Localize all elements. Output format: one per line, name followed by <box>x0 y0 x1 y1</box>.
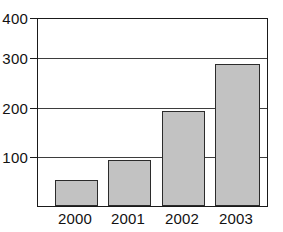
y-axis-label-300: 300 <box>2 51 28 66</box>
bar-2002 <box>162 111 205 206</box>
y-axis-label-400: 400 <box>2 11 28 26</box>
y-tick-mark-300 <box>30 58 37 59</box>
x-axis-label-2003: 2003 <box>201 211 271 226</box>
bar-2000 <box>55 180 98 206</box>
y-axis-label-200: 200 <box>2 101 28 116</box>
y-axis-label-100: 100 <box>2 150 28 165</box>
y-tick-mark-100 <box>30 157 37 158</box>
bar-2003 <box>215 64 260 206</box>
y-tick-mark-400 <box>30 18 37 19</box>
plot-area <box>37 18 268 207</box>
bar-2001 <box>108 160 151 207</box>
gridline-300 <box>38 58 267 59</box>
y-tick-mark-200 <box>30 108 37 109</box>
bar-chart: 400 300 200 100 2000 2001 2002 2003 <box>0 0 283 232</box>
